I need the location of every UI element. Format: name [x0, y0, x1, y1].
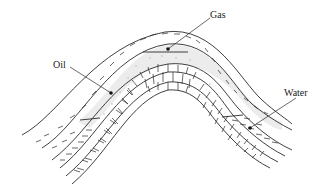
oil-marker — [109, 91, 113, 95]
water-marker — [248, 126, 252, 130]
water-label: Water — [284, 88, 308, 98]
anticline-diagram — [0, 0, 325, 191]
gas-marker — [166, 47, 170, 51]
oil-label: Oil — [53, 60, 66, 70]
top-boundary-line — [22, 31, 292, 135]
gas-leader-line — [168, 18, 210, 49]
oil-leader-line — [70, 67, 111, 93]
oil-water-contact-right — [222, 115, 243, 117]
gas-label: Gas — [210, 10, 226, 20]
